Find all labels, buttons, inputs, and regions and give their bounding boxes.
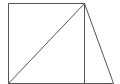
diagonal [9, 4, 85, 84]
triangle-hypotenuse [85, 4, 114, 84]
geometry-diagram [0, 0, 120, 84]
